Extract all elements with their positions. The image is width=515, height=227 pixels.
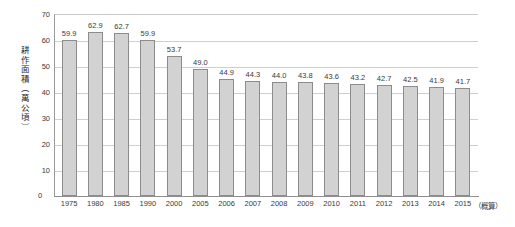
bar[interactable] [377,85,392,196]
bar-slot: 59.9 [135,14,161,196]
bar-series: 59.962.962.759.953.749.044.944.344.043.8… [54,14,478,196]
y-axis-tick-20: 20 [42,140,50,149]
bar-value-label: 62.9 [88,21,103,30]
bar-slot: 42.7 [371,14,397,196]
bar[interactable] [62,40,77,196]
bar[interactable] [324,83,339,196]
bar[interactable] [429,87,444,196]
bar-slot: 62.7 [109,14,135,196]
bar[interactable] [298,82,313,196]
bar-slot: 41.9 [424,14,450,196]
bar-slot: 43.2 [345,14,371,196]
y-axis-tick-60: 60 [42,36,50,45]
y-axis-tick-labels: 10203040506070 [30,9,50,197]
bar-slot: 44.0 [266,14,292,196]
bar[interactable] [88,32,103,196]
bar-slot: 43.8 [292,14,318,196]
x-axis-tick-2012: 2012 [371,199,397,215]
x-axis-tick-2013: 2013 [397,199,423,215]
x-axis-tick-1990: 1990 [135,199,161,215]
x-axis-tick-2008: 2008 [266,199,292,215]
bar-value-label: 59.9 [141,29,156,38]
bar[interactable] [167,56,182,196]
bar[interactable] [114,33,129,196]
x-axis-baseline [54,196,479,197]
bar-value-label: 62.7 [114,22,129,31]
x-axis-tick-2005: 2005 [187,199,213,215]
y-axis-title-text: 耕作面積（萬公頃） [18,46,29,132]
bar-slot: 43.6 [319,14,345,196]
y-axis-zero-label: 0 [38,191,42,200]
bar-slot: 59.9 [56,14,82,196]
y-axis-tick-40: 40 [42,88,50,97]
bar-value-label: 53.7 [167,45,182,54]
bar-slot: 42.5 [397,14,423,196]
x-axis-tick-2007: 2007 [240,199,266,215]
bar-value-label: 44.3 [246,70,261,79]
bar[interactable] [455,88,470,196]
y-axis-tick-70: 70 [42,10,50,19]
bar[interactable] [272,82,287,196]
y-axis-tick-30: 30 [42,114,50,123]
y-axis-tick-50: 50 [42,62,50,71]
x-axis-tick-labels: 1975198019851990200020052006200720082009… [54,199,478,215]
bar-value-label: 49.0 [193,58,208,67]
bar-value-label: 43.2 [351,73,366,82]
x-axis-tick-2000: 2000 [161,199,187,215]
bar-value-label: 42.7 [377,74,392,83]
bar[interactable] [350,84,365,196]
x-axis-tick-2015: 2015 [450,199,476,215]
bar[interactable] [219,79,234,196]
x-axis-tick-2010: 2010 [319,199,345,215]
bar-value-label: 43.6 [324,72,339,81]
bar-value-label: 41.9 [429,76,444,85]
bar[interactable] [245,81,260,196]
bar-slot: 44.9 [214,14,240,196]
bar-slot: 49.0 [187,14,213,196]
bar-slot: 62.9 [82,14,108,196]
estimate-annotation: （概算） [474,200,502,211]
bar[interactable] [140,40,155,196]
y-axis-tick-10: 10 [42,166,50,175]
x-axis-tick-1975: 1975 [56,199,82,215]
x-axis-tick-2011: 2011 [345,199,371,215]
bar-value-label: 42.5 [403,75,418,84]
bar-value-label: 41.7 [456,77,471,86]
bar-slot: 41.7 [450,14,476,196]
bar-value-label: 44.0 [272,71,287,80]
bar-slot: 44.3 [240,14,266,196]
bar-chart-figure: 耕作面積（萬公頃） 10203040506070 0 59.962.962.75… [0,0,515,227]
x-axis-tick-2006: 2006 [214,199,240,215]
bar[interactable] [193,69,208,196]
bar-value-label: 43.8 [298,71,313,80]
bar-slot: 53.7 [161,14,187,196]
x-axis-tick-2009: 2009 [292,199,318,215]
x-axis-tick-1985: 1985 [109,199,135,215]
x-axis-tick-2014: 2014 [424,199,450,215]
bar-value-label: 59.9 [62,29,77,38]
bar[interactable] [403,86,418,197]
x-axis-tick-1980: 1980 [82,199,108,215]
bar-value-label: 44.9 [219,68,234,77]
